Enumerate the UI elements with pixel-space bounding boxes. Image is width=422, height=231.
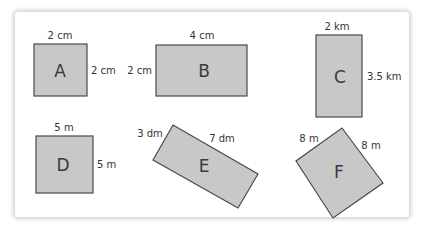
shape-e-label: E	[199, 156, 210, 176]
shape-d-side-dimension: 5 m	[97, 159, 116, 170]
shape-a-side-dimension: 2 cm	[91, 65, 116, 76]
shape-e-short-dimension: 3 dm	[137, 128, 163, 139]
shape-d-top-dimension: 5 m	[54, 122, 73, 133]
shape-b-top-dimension: 4 cm	[190, 30, 215, 41]
shape-e-long-dimension: 7 dm	[209, 133, 235, 144]
shape-c-side-dimension: 3.5 km	[367, 71, 402, 82]
shape-a-top-dimension: 2 cm	[48, 30, 73, 41]
shape-c: C 2 km 3.5 km	[316, 21, 402, 117]
shape-b-label: B	[198, 61, 210, 81]
shape-b-side-dimension: 2 cm	[127, 65, 152, 76]
shapes-diagram: A 2 cm 2 cm B 4 cm 2 cm C 2 km 3.5 km D …	[0, 0, 422, 231]
shape-e: E 3 dm 7 dm	[137, 125, 258, 208]
shape-d-label: D	[56, 155, 69, 175]
shape-f-left-dimension: 8 m	[299, 133, 318, 144]
shape-d: D 5 m 5 m	[36, 122, 116, 193]
shape-b: B 4 cm 2 cm	[127, 30, 247, 96]
shape-a-label: A	[54, 61, 66, 81]
shape-a: A 2 cm 2 cm	[34, 30, 116, 96]
shape-c-label: C	[334, 67, 346, 87]
shape-f: F 8 m 8 m	[296, 128, 383, 218]
shape-c-top-dimension: 2 km	[324, 21, 349, 32]
shape-f-right-dimension: 8 m	[361, 140, 380, 151]
shape-f-label: F	[334, 162, 344, 182]
